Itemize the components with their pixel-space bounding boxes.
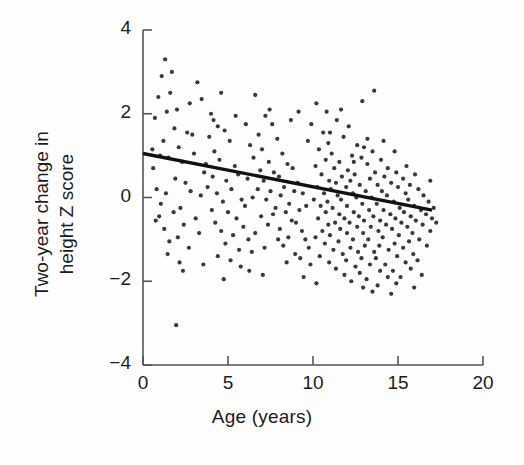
scatter-point xyxy=(341,252,345,256)
scatter-point xyxy=(163,57,167,61)
scatter-point xyxy=(397,233,401,237)
x-tick-label: 0 xyxy=(121,372,165,394)
scatter-point xyxy=(175,107,179,111)
scatter-point xyxy=(181,269,185,273)
y-tick-label: −2 xyxy=(91,268,131,290)
scatter-point xyxy=(351,237,355,241)
scatter-point xyxy=(325,200,329,204)
scatter-point xyxy=(404,191,408,195)
scatter-point xyxy=(356,250,360,254)
scatter-point xyxy=(381,235,385,239)
scatter-point xyxy=(256,187,260,191)
y-axis-title-line-2: height Z score xyxy=(54,154,79,274)
scatter-point xyxy=(300,229,304,233)
scatter-point xyxy=(387,248,391,252)
scatter-point xyxy=(183,181,187,185)
scatter-point xyxy=(357,214,361,218)
scatter-point xyxy=(292,189,296,193)
scatter-point xyxy=(151,166,155,170)
scatter-point xyxy=(210,208,214,212)
scatter-point xyxy=(253,93,257,97)
scatter-point xyxy=(216,124,220,128)
scatter-point xyxy=(381,139,385,143)
scatter-point xyxy=(359,156,363,160)
scatter-point xyxy=(382,174,386,178)
scatter-point xyxy=(272,170,276,174)
scatter-point xyxy=(402,210,406,214)
scatter-point xyxy=(239,264,243,268)
scatter-point xyxy=(414,218,418,222)
scatter-point xyxy=(318,254,322,258)
scatter-point xyxy=(268,189,272,193)
scatter-point xyxy=(417,237,421,241)
scatter-point xyxy=(425,244,429,248)
y-axis-title: Two-year change in height Z score xyxy=(26,64,82,364)
scatter-point xyxy=(352,210,356,214)
scatter-point xyxy=(412,285,416,289)
scatter-point xyxy=(383,262,387,266)
scatter-point xyxy=(289,118,293,122)
scatter-point xyxy=(296,110,300,114)
scatter-point xyxy=(247,269,251,273)
scatter-point xyxy=(346,168,350,172)
scatter-point xyxy=(251,195,255,199)
scatter-point xyxy=(293,252,297,256)
scatter-point xyxy=(290,218,294,222)
scatter-point xyxy=(331,248,335,252)
scatter-point xyxy=(322,191,326,195)
scatter-point xyxy=(223,241,227,245)
scatter-point xyxy=(219,229,223,233)
scatter-point xyxy=(166,252,170,256)
scatter-point xyxy=(376,229,380,233)
scatter-point xyxy=(285,162,289,166)
scatter-point xyxy=(320,229,324,233)
scatter-point xyxy=(330,206,334,210)
scatter-point xyxy=(401,177,405,181)
scatter-point xyxy=(222,277,226,281)
scatter-point xyxy=(335,118,339,122)
scatter-point xyxy=(251,156,255,160)
scatter-point xyxy=(401,246,405,250)
scatter-point xyxy=(253,231,257,235)
x-axis-ticks xyxy=(143,356,483,365)
scatter-point xyxy=(250,250,254,254)
y-tick-label: 2 xyxy=(91,101,131,123)
scatter-point xyxy=(280,151,284,155)
scatter-point xyxy=(297,208,301,212)
scatter-point xyxy=(333,221,337,225)
scatter-point xyxy=(302,275,306,279)
scatter-point xyxy=(301,191,305,195)
scatter-point xyxy=(389,292,393,296)
scatter-point xyxy=(228,258,232,262)
scatter-point xyxy=(340,174,344,178)
scatter-point xyxy=(267,160,271,164)
scatter-point xyxy=(170,70,174,74)
scatter-point xyxy=(342,135,346,139)
scatter-plot-figure: Two-year change in height Z score Age (y… xyxy=(0,0,524,465)
scatter-point xyxy=(160,74,164,78)
scatter-point xyxy=(366,237,370,241)
scatter-point xyxy=(348,179,352,183)
scatter-point xyxy=(206,185,210,189)
scatter-point xyxy=(240,197,244,201)
scatter-point xyxy=(342,216,346,220)
scatter-point xyxy=(217,158,221,162)
scatter-point xyxy=(234,216,238,220)
scatter-point xyxy=(278,227,282,231)
scatter-point xyxy=(390,227,394,231)
scatter-point xyxy=(172,210,176,214)
scatter-point xyxy=(344,258,348,262)
scatter-point xyxy=(375,202,379,206)
scatter-point xyxy=(177,260,181,264)
scatter-point xyxy=(388,212,392,216)
scatter-point xyxy=(167,239,171,243)
scatter-point xyxy=(380,189,384,193)
scatter-point xyxy=(185,130,189,134)
scatter-point xyxy=(262,246,266,250)
scatter-point xyxy=(285,260,289,264)
scatter-point xyxy=(328,130,332,134)
scatter-point xyxy=(381,208,385,212)
scatter-point xyxy=(398,206,402,210)
scatter-point xyxy=(421,193,425,197)
scatter-point xyxy=(259,214,263,218)
